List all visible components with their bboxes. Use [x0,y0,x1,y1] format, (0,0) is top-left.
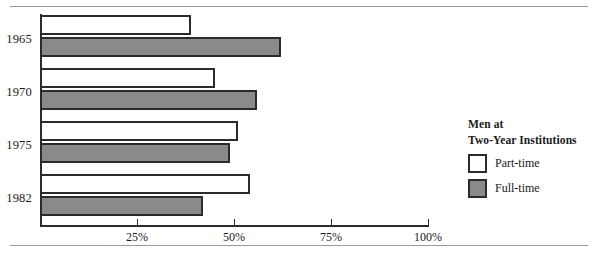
legend-label-part-time: Part-time [495,156,540,171]
legend-swatch-part-time [468,154,487,173]
legend-swatch-full-time [468,179,487,198]
x-tick-label-25: 25% [107,230,167,245]
legend-entry-full-time: Full-time [468,179,577,198]
chart-figure: 1965 1970 1975 1982 25% 50% 75% 100% Men… [0,0,598,255]
x-tick-75 [331,219,332,227]
bar-full-time-1975 [40,143,230,163]
bar-part-time-1982 [40,174,250,194]
bar-part-time-1975 [40,121,238,141]
x-tick-label-50: 50% [204,230,264,245]
category-label-1965: 1965 [0,32,32,47]
bar-full-time-1970 [40,90,257,110]
legend-title-line-1: Men at [468,117,577,133]
x-tick-label-100: 100% [398,230,458,245]
bar-full-time-1965 [40,37,281,57]
bar-full-time-1982 [40,196,203,216]
legend-title-line-2: Two-Year Institutions [468,133,577,149]
x-tick-100 [428,219,429,227]
x-tick-25 [137,219,138,227]
bar-part-time-1970 [40,68,215,88]
category-label-1982: 1982 [0,191,32,206]
x-tick-label-75: 75% [301,230,361,245]
category-label-1975: 1975 [0,138,32,153]
bar-part-time-1965 [40,15,191,35]
x-tick-50 [234,219,235,227]
category-label-1970: 1970 [0,85,32,100]
bottom-rule [10,245,588,246]
top-rule [10,6,588,7]
legend-entry-part-time: Part-time [468,154,577,173]
legend-label-full-time: Full-time [495,181,540,196]
chart-legend: Men at Two-Year Institutions Part-time F… [468,117,577,198]
plot-area [40,14,428,221]
